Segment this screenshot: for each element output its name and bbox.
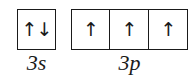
- orbital-box-3p-3: ↑: [149, 9, 188, 50]
- subshell-label-3p: 3p: [71, 52, 188, 74]
- subshell-3s-boxes: ↑↓: [17, 9, 56, 50]
- electron-pair-arrows-icon: ↑↓: [22, 20, 52, 39]
- orbital-box-3p-2: ↑: [110, 9, 149, 50]
- electron-up-arrow-icon: ↑: [161, 20, 176, 39]
- orbital-box-3s: ↑↓: [17, 9, 56, 50]
- subshell-label-3s: 3s: [17, 52, 56, 74]
- electron-up-arrow-icon: ↑: [83, 20, 98, 39]
- orbital-box-3p-1: ↑: [71, 9, 110, 50]
- subshell-3p-boxes: ↑ ↑ ↑: [71, 9, 188, 50]
- electron-up-arrow-icon: ↑: [122, 20, 137, 39]
